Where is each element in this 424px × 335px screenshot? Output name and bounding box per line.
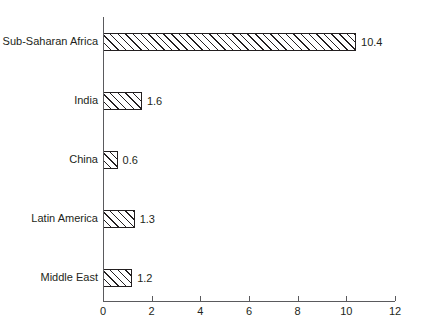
x-axis-tick	[249, 296, 250, 301]
bar-value-label: 0.6	[123, 154, 138, 166]
bar-value-label: 1.3	[140, 213, 155, 225]
x-axis-tick-label: 0	[88, 305, 118, 317]
bar	[103, 92, 142, 110]
bar-value-label: 1.6	[147, 95, 162, 107]
x-axis-tick	[103, 296, 104, 301]
x-axis-tick-label: 6	[234, 305, 264, 317]
x-axis-line	[103, 301, 395, 302]
bar	[103, 269, 132, 287]
category-label: India	[74, 94, 98, 106]
x-axis-tick	[152, 296, 153, 301]
bar	[103, 33, 356, 51]
category-label: China	[69, 153, 98, 165]
x-axis-tick-label: 4	[185, 305, 215, 317]
x-axis-tick-label: 8	[283, 305, 313, 317]
bar-chart: Sub-Saharan Africa 10.4 India 1.6 China …	[0, 0, 424, 335]
y-axis-line	[103, 17, 104, 301]
x-axis-tick-label: 10	[331, 305, 361, 317]
x-axis-tick	[346, 296, 347, 301]
bar	[103, 210, 135, 228]
bar-value-label: 10.4	[361, 36, 382, 48]
x-axis-tick-label: 12	[380, 305, 410, 317]
x-axis-tick-label: 2	[137, 305, 167, 317]
bar	[103, 151, 118, 169]
category-label: Latin America	[31, 212, 98, 224]
plot-area: Sub-Saharan Africa 10.4 India 1.6 China …	[0, 0, 424, 335]
x-axis-tick	[395, 296, 396, 301]
bar-value-label: 1.2	[137, 272, 152, 284]
x-axis-tick	[298, 296, 299, 301]
category-label: Middle East	[41, 271, 98, 283]
x-axis-tick	[200, 296, 201, 301]
category-label: Sub-Saharan Africa	[3, 35, 98, 47]
